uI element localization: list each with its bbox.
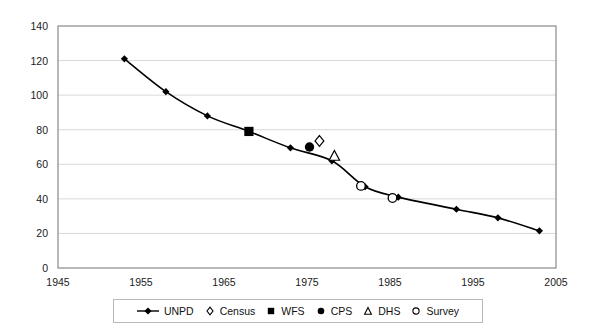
- legend-label-unpd: UNPD: [164, 305, 194, 317]
- legend-item-census[interactable]: Census: [205, 305, 256, 317]
- legend-label-dhs: DHS: [378, 305, 400, 317]
- chart-legend: UNPD Census WFS CPS: [113, 299, 483, 323]
- plot-area: [0, 0, 591, 335]
- series-dhs: [329, 150, 339, 160]
- series-wfs: [244, 127, 253, 136]
- legend-label-wfs: WFS: [281, 305, 304, 317]
- legend-label-survey: Survey: [426, 305, 459, 317]
- open-triangle-icon: [363, 305, 373, 317]
- legend-item-wfs[interactable]: WFS: [266, 305, 304, 317]
- legend-item-dhs[interactable]: DHS: [363, 305, 400, 317]
- filled-circle-icon: [316, 305, 326, 317]
- open-diamond-icon: [205, 305, 215, 317]
- legend-item-survey[interactable]: Survey: [411, 305, 459, 317]
- legend-label-cps: CPS: [331, 305, 353, 317]
- series-census: [315, 136, 324, 147]
- open-circle-icon: [411, 305, 421, 317]
- chart-container: 140 120 100 80 60 40 20 0 1945 1955 1965…: [0, 0, 591, 335]
- legend-item-cps[interactable]: CPS: [316, 305, 353, 317]
- legend-item-unpd[interactable]: UNPD: [137, 305, 194, 317]
- legend-label-census: Census: [220, 305, 256, 317]
- series-cps: [305, 142, 314, 151]
- line-filled-diamond-icon: [137, 305, 159, 317]
- series-unpd: [121, 55, 543, 234]
- filled-square-icon: [266, 305, 276, 317]
